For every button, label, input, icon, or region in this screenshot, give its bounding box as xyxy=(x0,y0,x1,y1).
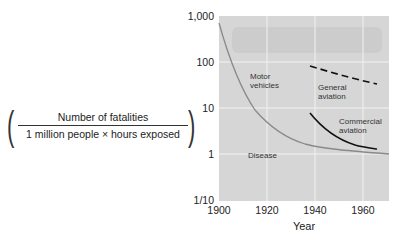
x-tick-1940: 1940 xyxy=(303,204,327,216)
y-tick-1000: 1,000 xyxy=(188,10,214,22)
label-commercial-aviation: aviation xyxy=(339,126,367,135)
x-axis-title: Year xyxy=(293,220,316,232)
x-tick-1900: 1900 xyxy=(207,204,231,216)
y-tick-100: 100 xyxy=(196,56,214,68)
y-tick-10: 10 xyxy=(202,102,214,114)
label-general-aviation: aviation xyxy=(318,92,346,101)
x-ticks: 1900 1920 1940 1960 xyxy=(207,204,375,216)
x-tick-1920: 1920 xyxy=(255,204,279,216)
label-disease: Disease xyxy=(248,151,277,160)
label-general: General xyxy=(318,83,347,92)
label-vehicles: vehicles xyxy=(250,81,279,90)
label-motor: Motor xyxy=(250,72,271,81)
chart: 1,000 100 10 1 1/10 1900 1920 1940 1960 … xyxy=(0,0,396,244)
x-tick-1960: 1960 xyxy=(351,204,375,216)
label-commercial: Commercial xyxy=(339,117,382,126)
y-tick-1: 1 xyxy=(208,148,214,160)
y-ticks: 1,000 100 10 1 1/10 xyxy=(188,10,214,206)
plot-smudge xyxy=(232,27,382,53)
